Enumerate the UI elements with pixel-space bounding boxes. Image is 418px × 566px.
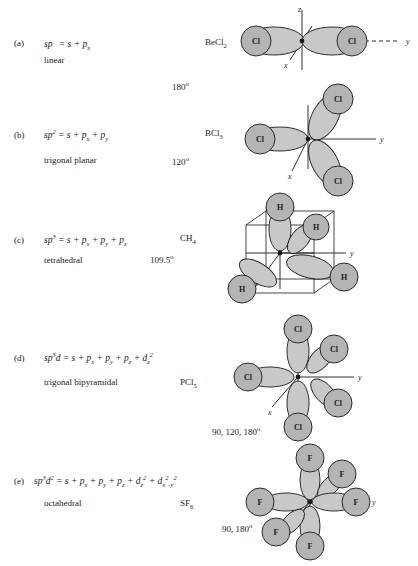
atom-label-f: F <box>258 498 263 507</box>
atom-label-cl: Cl <box>294 423 303 432</box>
row-sp3d2: (e) sp3d2 = s + px + py + pz + dz2 + dx2… <box>0 440 418 566</box>
angles-sp3d2: 90, 180o <box>222 522 252 534</box>
atom-label-f: F <box>308 542 313 551</box>
axis-label-y: y <box>349 249 354 258</box>
atom-label-f: F <box>354 498 359 507</box>
formula-sp2: sp2 = s + px + py <box>44 128 108 142</box>
diagram-ch4: y x H H H H <box>238 193 418 311</box>
atom-label-cl: Cl <box>334 95 343 104</box>
angles-sp3: 109.5o <box>150 253 174 265</box>
geometry-trigonal-bipyramidal: trigonal bipyramidal <box>44 377 118 387</box>
row-label-a: (a) <box>14 38 24 48</box>
molecule-pcl5: PCl5 <box>180 377 197 389</box>
axis-label-z: z <box>297 5 302 14</box>
formula-sp3: sp3 = s + px + py + pz <box>44 233 127 247</box>
axis-label-y: y <box>371 498 376 507</box>
diagram-bcl3: y x Cl Cl Cl <box>250 87 418 195</box>
axis-label-y: y <box>357 373 362 382</box>
row-sp3d: (d) sp3d = s + px + py + pz + dz2 trigon… <box>0 325 418 440</box>
atom-label-cl: Cl <box>334 177 343 186</box>
row-sp2: (b) sp2 = s + px + py trigonal planar BC… <box>0 95 418 195</box>
atom-label-cl: Cl <box>348 37 357 46</box>
axis-label-x: x <box>283 61 288 70</box>
molecule-bcl3: BCl3 <box>205 128 223 140</box>
atom-label-f: F <box>308 454 313 463</box>
row-label-b: (b) <box>14 130 25 140</box>
axis-label-x: x <box>287 172 292 181</box>
angles-sp2: 120o <box>172 155 189 167</box>
axis-label-y: y <box>405 37 410 46</box>
axis-label-y: y <box>379 135 384 144</box>
molecule-becl2: BeCl2 <box>205 37 227 49</box>
angles-sp: 180o <box>172 80 189 92</box>
atom-label-cl: Cl <box>334 399 343 408</box>
geometry-trigonal-planar: trigonal planar <box>44 155 97 165</box>
row-label-e: (e) <box>14 476 24 486</box>
atom-label-h: H <box>277 203 284 212</box>
figure-canvas: (a) sp = s + px linear BeCl2 180o z y x … <box>0 0 418 566</box>
atom-label-h: H <box>341 273 348 282</box>
atom-label-h: H <box>313 223 320 232</box>
atom-label-cl: Cl <box>256 135 265 144</box>
formula-sp3d2: sp3d2 = s + px + py + pz + dz2 + dx2-y2 <box>34 474 177 488</box>
atom-label-cl: Cl <box>330 345 339 354</box>
row-sp: (a) sp = s + px linear BeCl2 180o z y x … <box>0 0 418 95</box>
formula-sp: sp = s + px <box>44 37 90 51</box>
geometry-tetrahedral: tetrahedral <box>44 255 82 265</box>
atom-label-cl: Cl <box>294 325 303 334</box>
row-label-c: (c) <box>14 235 24 245</box>
molecule-sf6: SF6 <box>180 498 193 510</box>
formula-sp3d: sp3d = s + px + py + pz + dz2 <box>44 351 153 365</box>
atom-label-cl: Cl <box>244 373 253 382</box>
atom-label-f: F <box>340 470 345 479</box>
row-sp3: (c) sp3 = s + px + py + pz tetrahedral C… <box>0 195 418 310</box>
diagram-becl2: z y x Cl Cl <box>240 8 418 90</box>
geometry-linear: linear <box>44 55 65 65</box>
row-label-d: (d) <box>14 353 25 363</box>
geometry-octahedral: octahedral <box>44 498 81 508</box>
molecule-ch4: CH4 <box>180 233 196 245</box>
atom-label-f: F <box>274 528 279 537</box>
axis-label-x: x <box>267 408 272 417</box>
atom-label-h: H <box>239 285 246 294</box>
diagram-pcl5: y x Cl Cl Cl Cl Cl <box>250 319 418 439</box>
atom-label-cl: Cl <box>252 37 261 46</box>
diagram-sf6: z y x F F F F F F <box>258 438 418 564</box>
